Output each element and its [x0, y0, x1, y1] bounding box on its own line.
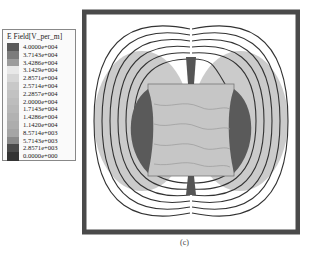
- figure-caption: (c): [180, 238, 189, 247]
- legend-entry: 0.0000e+000: [7, 152, 75, 160]
- color-legend: E Field[V_per_m] 4.0000e+0043.7143e+0043…: [2, 29, 76, 161]
- e-field-plot: [82, 9, 300, 235]
- legend-label: 0.0000e+000: [23, 152, 58, 160]
- legend-title: E Field[V_per_m]: [7, 32, 62, 41]
- legend-swatch: [7, 152, 19, 160]
